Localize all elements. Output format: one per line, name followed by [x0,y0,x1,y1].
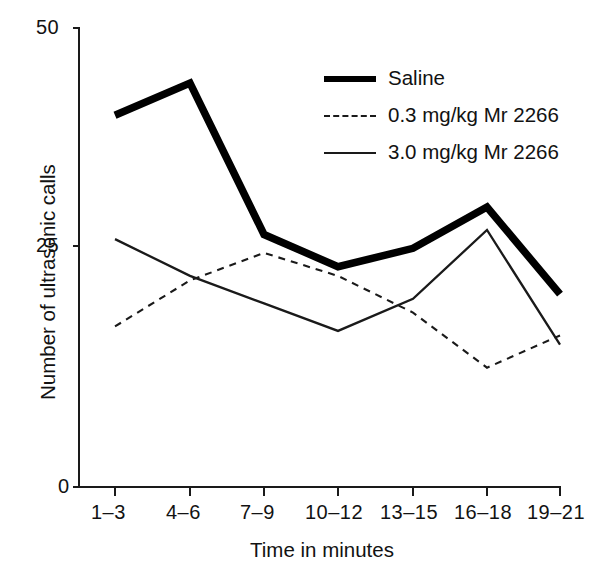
x-tick-label-3: 10–12 [305,501,363,524]
legend-label-high-dose: 3.0 mg/kg Mr 2266 [388,140,559,164]
x-tick-label-2: 7–9 [240,501,275,524]
y-axis-title: Number of ultrasonic calls [36,164,60,400]
x-tick-label-6: 19–21 [527,501,585,524]
x-tick-label-1: 4–6 [166,501,201,524]
legend-item-saline: Saline [322,68,592,105]
legend-item-low-dose: 0.3 mg/kg Mr 2266 [322,105,592,142]
legend-label-low-dose: 0.3 mg/kg Mr 2266 [388,103,559,127]
series-line-3-0-mgkg [115,230,560,345]
thick-solid-line-icon [322,68,378,88]
x-tick-label-0: 1–3 [91,501,126,524]
x-axis-title: Time in minutes [250,538,394,562]
chart-legend: Saline 0.3 mg/kg Mr 2266 3.0 mg/kg Mr 22… [322,68,592,179]
x-tick-marks [115,487,560,496]
thin-solid-line-icon [322,142,378,162]
dashed-line-icon [322,105,378,125]
y-tick-label-0: 0 [58,475,70,498]
legend-label-saline: Saline [388,66,445,90]
y-axis-title-wrap: Number of ultrasonic calls [22,0,52,500]
x-tick-label-5: 16–18 [454,501,512,524]
x-tick-label-4: 13–15 [380,501,438,524]
chart-figure: 50 25 0 Number of ultrasonic calls 1–3 4… [0,0,603,575]
legend-item-high-dose: 3.0 mg/kg Mr 2266 [322,142,592,179]
